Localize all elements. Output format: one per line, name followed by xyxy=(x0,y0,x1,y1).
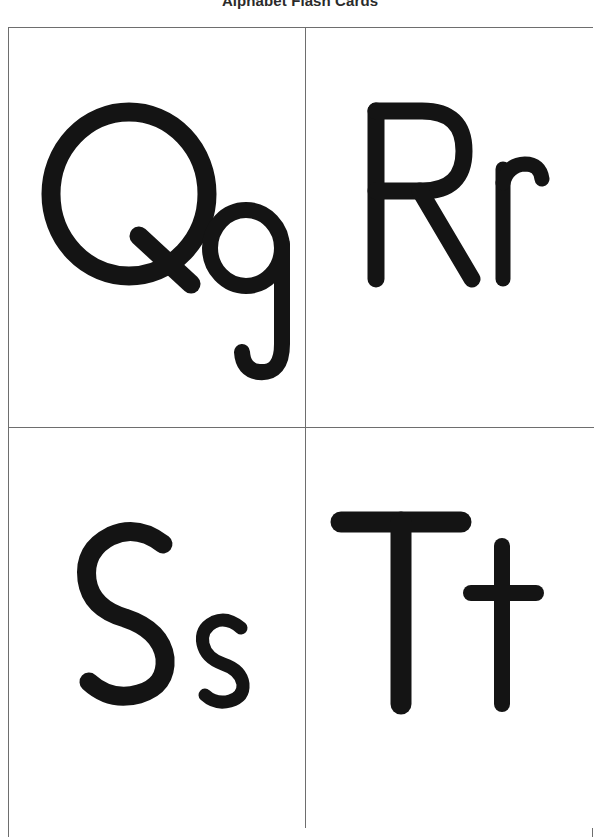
handwritten-letter-qq-icon xyxy=(43,106,295,396)
flash-card-tt[interactable]: Tt xyxy=(306,428,594,828)
flash-card-grid: Qq Rr xyxy=(8,27,593,837)
page-title: Alphabet Flash Cards xyxy=(0,0,600,10)
handwritten-letter-ss-icon xyxy=(67,518,267,708)
handwritten-letter-tt-icon xyxy=(332,508,560,728)
flash-card-qq[interactable]: Qq xyxy=(9,28,306,428)
handwritten-letter-rr-icon xyxy=(360,103,550,288)
flash-card-ss[interactable]: Ss xyxy=(9,428,306,828)
flash-card-rr[interactable]: Rr xyxy=(306,28,594,428)
